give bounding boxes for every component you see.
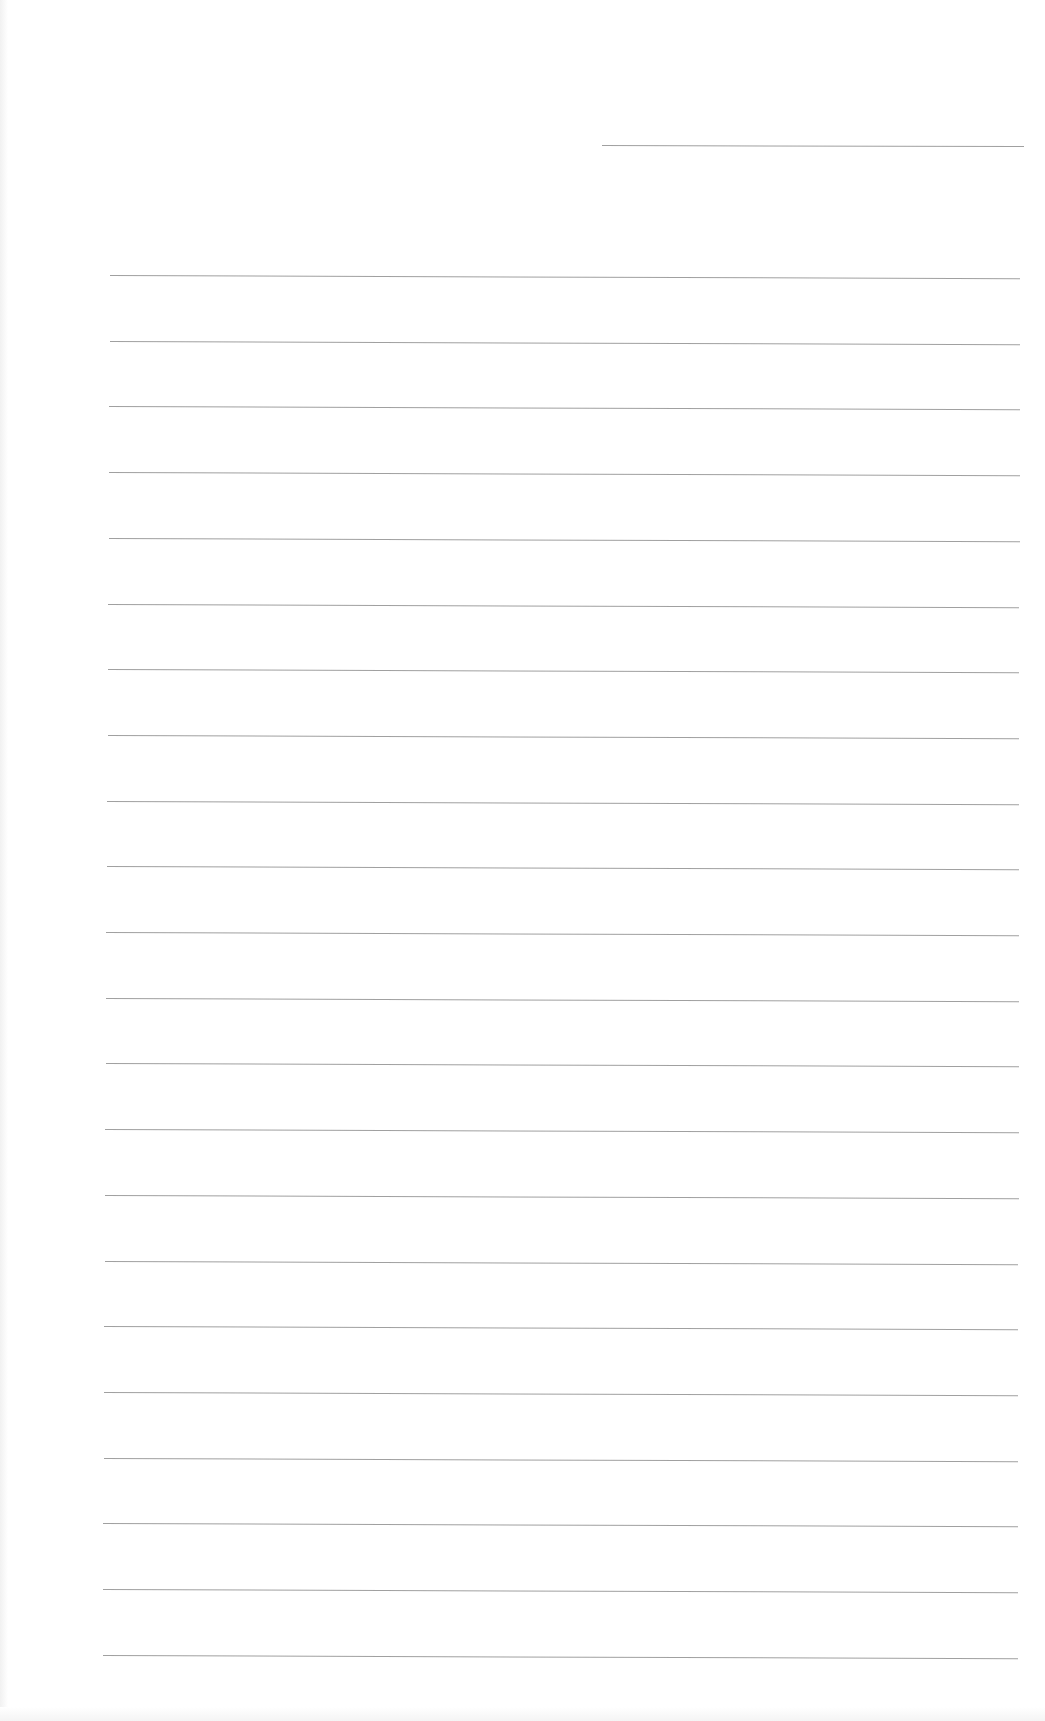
ruled-line	[109, 472, 1020, 476]
ruled-line	[109, 406, 1020, 410]
ruled-line	[105, 1261, 1018, 1265]
ruled-line	[108, 604, 1019, 608]
ruled-line	[108, 669, 1019, 673]
ruled-line	[107, 801, 1019, 805]
ruled-line	[103, 1589, 1018, 1593]
page-edge-shadow	[0, 0, 8, 1721]
ruled-line	[104, 1392, 1018, 1396]
ruled-line	[110, 341, 1020, 345]
ruled-line	[106, 998, 1019, 1002]
ruled-line	[107, 866, 1019, 870]
ruled-line	[104, 1326, 1018, 1330]
ruled-line	[105, 1129, 1019, 1133]
ruled-line	[110, 275, 1020, 279]
ruled-line	[106, 932, 1019, 936]
ruled-line	[109, 538, 1020, 542]
ruled-line	[105, 1195, 1019, 1199]
ruled-line	[103, 1523, 1018, 1527]
lined-paper-page	[0, 0, 1045, 1721]
ruled-line	[103, 1655, 1018, 1659]
ruled-line	[108, 735, 1019, 739]
ruled-line	[104, 1458, 1018, 1462]
page-bottom-edge	[0, 1707, 1045, 1721]
header-rule-line	[602, 145, 1024, 147]
ruled-line	[106, 1063, 1019, 1067]
